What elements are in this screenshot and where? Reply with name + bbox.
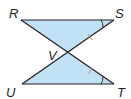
triangle-utv bbox=[22, 52, 114, 84]
label-s: S bbox=[115, 6, 124, 21]
triangle-rsv bbox=[21, 20, 114, 52]
geometry-diagram: R S V U T bbox=[0, 0, 131, 99]
label-u: U bbox=[6, 85, 16, 99]
label-t: T bbox=[117, 85, 126, 99]
label-v: V bbox=[48, 48, 58, 63]
label-r: R bbox=[9, 6, 18, 21]
